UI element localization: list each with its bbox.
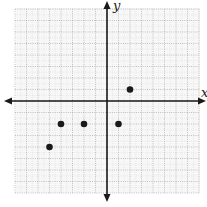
y-axis-label: y [112,0,121,13]
data-point [127,86,134,93]
x-axis-left-arrow-icon [4,98,12,105]
x-axis-label: x [201,85,207,100]
data-point [115,121,122,128]
data-point [46,144,53,151]
y-axis-down-arrow-icon [104,194,111,202]
coordinate-plane: y x [0,0,207,207]
y-axis-up-arrow-icon [104,1,111,9]
data-point [81,121,88,128]
data-point [58,121,65,128]
